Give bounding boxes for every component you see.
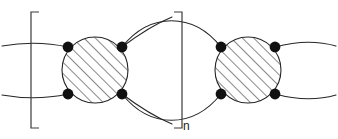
- bond-arc-center-bottom: [122, 94, 221, 120]
- polymer-structure-svg: [0, 0, 338, 139]
- polymer-structure-figure: n: [0, 0, 338, 139]
- bond-arc-right-end-top: [275, 42, 336, 47]
- repeat-unit-subscript: n: [183, 120, 190, 132]
- vertex-dot-right-se: [270, 89, 281, 100]
- vertex-dot-left-sw: [63, 89, 74, 100]
- bond-arc-center-top: [122, 21, 221, 47]
- vertex-dot-left-ne: [117, 42, 128, 53]
- vertex-dot-left-nw: [63, 42, 74, 53]
- bracket-right: [174, 12, 182, 128]
- bond-arc-left-end-top: [2, 43, 68, 47]
- bond-arc-network: [2, 17, 336, 124]
- vertex-dot-left-se: [117, 89, 128, 100]
- bond-arc-left-end-bottom: [2, 94, 68, 98]
- bond-arc-right-end-bottom: [275, 94, 336, 99]
- vertex-dot-right-ne: [270, 42, 281, 53]
- vertex-dot-right-nw: [216, 42, 227, 53]
- vertex-dot-right-sw: [216, 89, 227, 100]
- bracket-left: [31, 12, 39, 128]
